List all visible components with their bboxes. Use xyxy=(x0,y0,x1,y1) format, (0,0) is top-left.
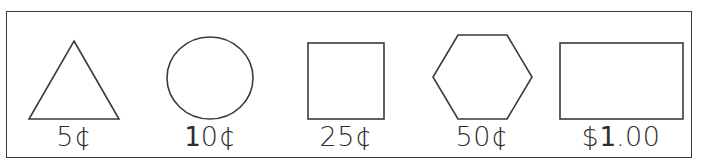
digit-one-glyph: 1 xyxy=(599,121,616,152)
legend-cell-dime: 10¢ xyxy=(142,11,278,158)
triangle-shape xyxy=(27,39,121,121)
coin-shape-legend-page: 5¢ 10¢ 25¢ 50¢ xyxy=(0,0,702,168)
rectangle-shape xyxy=(558,41,685,121)
hexagon-shape xyxy=(431,33,534,121)
legend-cell-dollar: $1.00 xyxy=(550,11,692,158)
legend-cell-nickel: 5¢ xyxy=(6,11,142,158)
legend-cell-quarter: 25¢ xyxy=(278,11,414,158)
circle-shape xyxy=(165,35,255,121)
rectangle-shape-slot xyxy=(550,21,692,121)
coin-value-label-half-dollar: 50¢ xyxy=(414,120,550,154)
coin-value-label-nickel: 5¢ xyxy=(6,120,142,154)
circle-shape-slot xyxy=(142,21,278,121)
coin-value-label-quarter: 25¢ xyxy=(278,120,414,154)
coin-value-label-dime: 10¢ xyxy=(142,120,278,154)
triangle-shape-slot xyxy=(6,21,142,121)
hexagon-shape-slot xyxy=(414,21,550,121)
square-shape xyxy=(306,41,386,121)
digit-one-glyph: 1 xyxy=(184,121,201,152)
legend-cell-half-dollar: 50¢ xyxy=(414,11,550,158)
square-shape-slot xyxy=(278,21,414,121)
coin-value-label-dollar: $1.00 xyxy=(550,120,692,154)
